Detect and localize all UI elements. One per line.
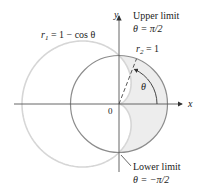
x-axis-label: x <box>187 98 193 109</box>
origin-label: 0 <box>108 106 113 116</box>
theta-label: θ <box>141 81 146 92</box>
upper-limit-value: θ = π/2 <box>133 23 162 34</box>
r1-label: r1 = 1 − cos θ <box>41 29 96 42</box>
polar-diagram: y x 0 Upper limit θ = π/2 r1 = 1 − cos θ… <box>0 0 206 190</box>
lower-limit-title: Lower limit <box>133 161 181 172</box>
lower-limit-value: θ = −π/2 <box>133 174 169 185</box>
y-axis-label: y <box>113 9 119 20</box>
r2-label: r2 = 1 <box>136 43 159 56</box>
upper-limit-title: Upper limit <box>133 10 180 21</box>
lower-limit-pointer <box>121 155 131 166</box>
